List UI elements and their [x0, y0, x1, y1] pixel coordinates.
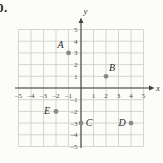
y-tick-label: –4: [70, 131, 79, 139]
y-tick-label: –5: [70, 143, 79, 151]
point-label-D: D: [117, 117, 126, 128]
x-tick-label: 3: [117, 92, 121, 100]
x-tick-label: 1: [92, 92, 96, 100]
y-tick-label: 1: [74, 73, 78, 81]
y-tick-label: –3: [70, 120, 79, 128]
x-tick-label: –3: [39, 92, 48, 100]
coordinate-plane: xy–5–4–3–2–11234554321–1–2–3–4–5ABCDE: [0, 0, 163, 163]
x-tick-label: –4: [27, 92, 36, 100]
point-dot-A: [66, 51, 71, 56]
point-label-E: E: [43, 105, 50, 116]
point-dot-B: [104, 74, 109, 79]
point-dot-E: [54, 109, 59, 114]
point-label-B: B: [109, 62, 115, 73]
x-tick-label: 2: [104, 92, 108, 100]
worksheet-figure: 0. xy–5–4–3–2–11234554321–1–2–3–4–5ABCDE: [0, 0, 163, 163]
point-dot-C: [79, 121, 84, 126]
point-label-C: C: [86, 117, 93, 128]
x-tick-label: 5: [142, 92, 146, 100]
point-label-A: A: [56, 39, 64, 50]
point-dot-D: [129, 121, 134, 126]
y-axis-arrow-icon: [79, 18, 84, 24]
x-axis-label: x: [155, 83, 160, 93]
y-axis-label: y: [83, 6, 88, 16]
x-tick-label: –5: [14, 92, 23, 100]
x-tick-label: 4: [129, 92, 133, 100]
y-tick-label: 2: [74, 61, 78, 69]
x-axis-arrow-icon: [149, 86, 155, 91]
x-tick-label: –2: [52, 92, 61, 100]
y-tick-label: –1: [70, 96, 79, 104]
y-tick-label: 3: [74, 49, 78, 57]
y-tick-label: 4: [74, 38, 78, 46]
y-tick-label: 5: [74, 26, 78, 34]
y-tick-label: –2: [70, 108, 79, 116]
